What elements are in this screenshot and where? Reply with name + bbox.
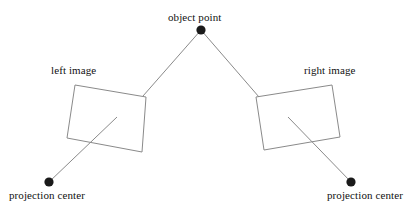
left-image-plane [67, 85, 146, 152]
ray-right-projection-center-to-image [288, 117, 351, 182]
ray-object-to-right-image [201, 30, 259, 97]
diagram-canvas [0, 0, 416, 213]
right-image-plane [256, 85, 340, 150]
object-point-label: object point [168, 11, 221, 23]
object-point-marker [196, 25, 205, 34]
left-image-label: left image [51, 64, 96, 76]
ray-object-to-left-image [143, 30, 201, 96]
stereo-geometry-diagram: object point left image right image proj… [0, 0, 416, 213]
ray-left-projection-center-to-image [49, 117, 117, 182]
left-projection-center-label: projection center [9, 189, 85, 201]
left-projection-center-marker [44, 177, 53, 186]
right-image-label: right image [304, 64, 356, 76]
right-projection-center-marker [346, 177, 355, 186]
right-projection-center-label: projection center [327, 189, 403, 201]
